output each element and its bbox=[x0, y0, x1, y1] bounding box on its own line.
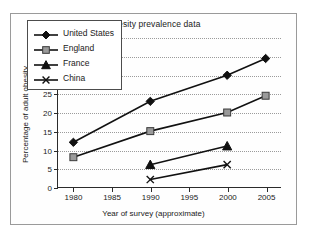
x-axis-tick-mark bbox=[112, 187, 113, 192]
square-marker-icon bbox=[33, 42, 59, 54]
x-axis-tick-label: 2000 bbox=[219, 193, 237, 202]
series-france bbox=[146, 141, 232, 168]
x-axis-tick-mark bbox=[73, 187, 74, 192]
chart-legend: United StatesEnglandFranceChina bbox=[27, 20, 122, 90]
x-axis-tick-mark bbox=[228, 187, 229, 192]
x-axis-tick-label: 2005 bbox=[258, 193, 276, 202]
data-point bbox=[223, 71, 231, 79]
data-point bbox=[69, 138, 77, 146]
x-axis-tick-label: 1995 bbox=[180, 193, 198, 202]
legend-item-england[interactable]: England bbox=[33, 40, 114, 55]
x-axis-tick-label: 1980 bbox=[65, 193, 83, 202]
data-point bbox=[146, 97, 154, 105]
legend-item-france[interactable]: France bbox=[33, 55, 114, 70]
data-point bbox=[147, 128, 154, 135]
data-point bbox=[262, 92, 269, 99]
x-axis-tick-label: 1985 bbox=[103, 193, 121, 202]
x-axis-tick-mark bbox=[267, 187, 268, 192]
legend-item-label: England bbox=[63, 43, 94, 53]
series-china bbox=[147, 161, 231, 183]
legend-item-label: China bbox=[63, 73, 85, 83]
chart-figure: Obesity prevalence data Percentage of ad… bbox=[10, 13, 297, 225]
x-axis-label: Year of survey (approximate) bbox=[11, 209, 296, 218]
data-point bbox=[70, 154, 77, 161]
y-axis-tick-mark bbox=[54, 188, 58, 189]
x-marker-icon bbox=[33, 72, 59, 84]
legend-item-label: France bbox=[63, 58, 89, 68]
x-axis-tick-label: 1990 bbox=[142, 193, 160, 202]
series-line bbox=[150, 146, 227, 165]
diamond-marker-icon bbox=[33, 27, 59, 39]
legend-item-china[interactable]: China bbox=[33, 70, 114, 85]
data-point bbox=[223, 141, 232, 149]
series-england bbox=[70, 92, 269, 160]
data-point bbox=[224, 109, 231, 116]
legend-item-united-states[interactable]: United States bbox=[33, 25, 114, 40]
x-axis-tick-mark bbox=[189, 187, 190, 192]
triangle-marker-icon bbox=[33, 57, 59, 69]
x-axis-tick-mark bbox=[151, 187, 152, 192]
series-line bbox=[150, 165, 227, 180]
data-point bbox=[261, 54, 269, 62]
legend-item-label: United States bbox=[63, 28, 114, 38]
